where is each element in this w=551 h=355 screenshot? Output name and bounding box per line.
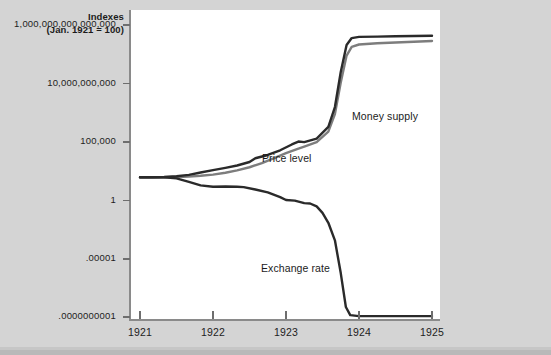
y-tick-mark [123,141,130,143]
series-line-exchange-rate [140,177,432,316]
x-tick-label: 1922 [190,326,236,338]
x-tick-mark [358,311,360,319]
x-tick-label: 1923 [263,326,309,338]
x-tick-mark [431,311,433,319]
x-tick-mark [139,311,141,319]
y-tick-label: .0000000001 [58,310,116,321]
x-tick-mark [285,311,287,319]
chart-figure: Indexes (Jan. 1921 = 100) 1,000,000,000,… [0,0,551,355]
y-tick-label: 10,000,000,000 [47,77,116,88]
y-tick-mark [123,258,130,260]
x-tick-mark [212,311,214,319]
y-tick-label: 100,000 [80,135,116,146]
y-tick-label: 1 [111,194,116,205]
y-tick-mark [123,200,130,202]
series-label-money-supply: Money supply [352,110,418,122]
y-tick-mark [123,316,130,318]
y-tick-mark [123,83,130,85]
x-tick-label: 1925 [409,326,455,338]
page-edge-shadow [0,350,551,355]
y-tick-label: 1,000,000,000,000,000 [14,18,116,29]
x-tick-label: 1921 [117,326,163,338]
series-canvas [129,10,440,321]
y-tick-mark [123,24,130,26]
series-label-price-level: Price level [262,152,312,164]
x-tick-label: 1924 [336,326,382,338]
series-label-exchange-rate: Exchange rate [261,262,330,274]
y-tick-label: .00001 [86,252,116,263]
